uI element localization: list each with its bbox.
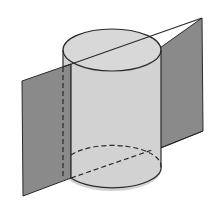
left-plane-panel [22, 64, 71, 196]
cylinder-plane-diagram [0, 0, 219, 214]
